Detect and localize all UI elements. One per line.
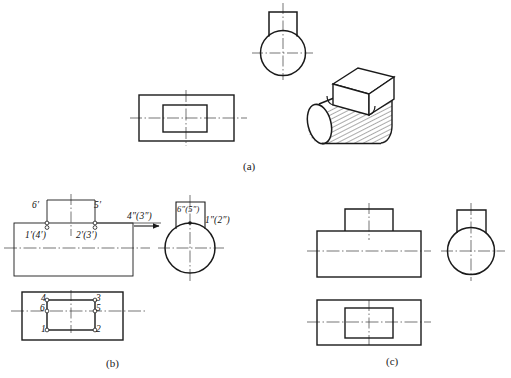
label-point-1: 1 [41, 324, 46, 334]
point-marker-6p [45, 221, 49, 225]
point-marker-65pp [188, 221, 192, 225]
label-point-6: 6 [40, 303, 45, 313]
panel-c-group [307, 203, 505, 345]
caption-c: (c) [386, 355, 398, 367]
engineering-drawing-figure: 6′ 5′ 1′(4′) 2′(3′) 4″(3″) 6″(5″) 1″(2″)… [0, 0, 511, 378]
caption-a: (a) [243, 160, 255, 172]
front-body-rectangle [317, 231, 421, 277]
inner-rectangle [163, 105, 207, 132]
label-1-dprime-2-dprime: 1″(2″) [205, 215, 230, 225]
label-point-5: 5 [96, 303, 101, 313]
panel-c-top-view [307, 300, 431, 345]
label-6-prime: 6′ [32, 200, 39, 210]
label-point-4: 4 [41, 293, 46, 303]
label-point-3: 3 [96, 293, 101, 303]
drawing-canvas [0, 0, 511, 378]
label-5-prime: 5′ [94, 200, 101, 210]
label-1-prime-4-prime: 1′(4′) [25, 230, 46, 240]
panel-b-group [4, 194, 224, 340]
label-4-dprime-3-dprime: 4″(3″) [127, 211, 152, 221]
panel-b-top-view [11, 290, 145, 340]
panel-a-top-view [130, 90, 247, 146]
caption-b: (b) [106, 357, 119, 369]
panel-a-pictorial-view [304, 68, 394, 146]
panel-c-side-view [441, 203, 505, 281]
point-marker-5p [93, 221, 97, 225]
label-2-prime-3-prime: 2′(3′) [76, 230, 97, 240]
point-marker-1p4p [45, 226, 49, 230]
panel-a-group [130, 3, 394, 146]
panel-a-side-view [252, 3, 313, 80]
block-cylinder-intersection-left [327, 96, 333, 105]
panel-c-front-view [307, 203, 431, 277]
label-6-dprime-5-dprime: 6″(5″) [177, 204, 199, 214]
outer-rectangle [22, 292, 123, 340]
point-marker-2p3p [93, 226, 97, 230]
point-marker-6 [45, 309, 49, 313]
label-point-2: 2 [96, 324, 101, 334]
